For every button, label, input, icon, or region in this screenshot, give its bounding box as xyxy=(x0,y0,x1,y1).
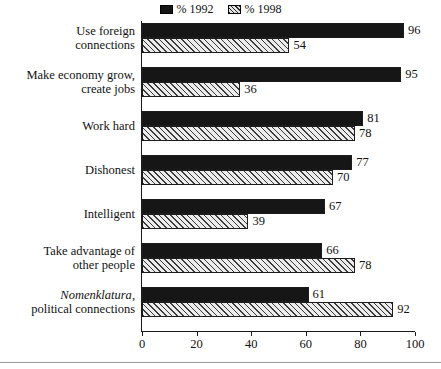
bar-value-label: 54 xyxy=(293,38,306,53)
bar-value-label: 81 xyxy=(367,111,380,126)
axis-tick xyxy=(306,332,307,336)
bar-value-label: 66 xyxy=(326,243,339,258)
category-label-line: Nomenklatura, xyxy=(0,288,135,302)
bar-1998 xyxy=(142,258,355,273)
category-label-line: Dishonest xyxy=(0,163,135,177)
axis-tick-label: 60 xyxy=(300,337,313,351)
legend-label-1998: % 1998 xyxy=(245,3,282,15)
legend-item-1992: % 1992 xyxy=(160,3,214,15)
category-label: Dishonest xyxy=(0,163,135,177)
bar-1998 xyxy=(142,38,289,53)
bar-1992 xyxy=(142,199,325,214)
category-label: Intelligent xyxy=(0,207,135,221)
bar-value-label: 78 xyxy=(359,126,372,141)
category-label-line: political connections xyxy=(0,302,135,316)
category-label-line: connections xyxy=(0,38,135,52)
bar-1992 xyxy=(142,243,322,258)
bar-1992 xyxy=(142,287,309,302)
axis-tick xyxy=(360,332,361,336)
category-label-line: Take advantage of xyxy=(0,244,135,258)
bar-value-label: 39 xyxy=(252,214,265,229)
bar-1998 xyxy=(142,170,333,185)
bar-1998 xyxy=(142,82,240,97)
category-label-line: other people xyxy=(0,258,135,272)
category-label: Make economy grow,create jobs xyxy=(0,68,135,96)
axis-tick xyxy=(197,332,198,336)
bar-1992 xyxy=(142,111,363,126)
axis-tick xyxy=(415,332,416,336)
bar-value-label: 70 xyxy=(337,170,350,185)
value-axis: 020406080100 xyxy=(142,332,415,356)
category-label-line: Work hard xyxy=(0,119,135,133)
bar-value-label: 78 xyxy=(359,258,372,273)
bar-1998 xyxy=(142,302,393,317)
bar-1998 xyxy=(142,214,248,229)
category-label: Take advantage ofother people xyxy=(0,244,135,272)
axis-tick-label: 40 xyxy=(245,337,258,351)
bar-chart: % 1992 % 1998 Use foreignconnectionsMake… xyxy=(0,0,441,369)
bar-value-label: 92 xyxy=(397,302,410,317)
axis-tick-label: 0 xyxy=(139,337,145,351)
bar-1992 xyxy=(142,67,401,82)
bar-value-label: 96 xyxy=(408,23,421,38)
bar-1992 xyxy=(142,23,404,38)
bar-value-label: 61 xyxy=(313,287,326,302)
bar-value-label: 77 xyxy=(356,155,369,170)
category-label-line: Intelligent xyxy=(0,207,135,221)
category-label-line: create jobs xyxy=(0,82,135,96)
bar-1992 xyxy=(142,155,352,170)
category-label: Nomenklatura,political connections xyxy=(0,288,135,316)
axis-tick xyxy=(251,332,252,336)
bar-1998 xyxy=(142,126,355,141)
category-label-line: Make economy grow, xyxy=(0,68,135,82)
axis-tick xyxy=(142,332,143,336)
chart-legend: % 1992 % 1998 xyxy=(0,1,441,17)
axis-tick-label: 80 xyxy=(354,337,367,351)
bar-value-label: 67 xyxy=(329,199,342,214)
legend-label-1992: % 1992 xyxy=(177,3,214,15)
hatched-swatch-icon xyxy=(228,5,241,14)
legend-item-1998: % 1998 xyxy=(228,3,282,15)
category-axis-labels: Use foreignconnectionsMake economy grow,… xyxy=(0,21,135,332)
axis-tick-label: 20 xyxy=(190,337,203,351)
bars-layer: 9654953681787770673966786192 xyxy=(142,21,415,332)
axis-tick-label: 100 xyxy=(406,337,425,351)
category-label: Work hard xyxy=(0,119,135,133)
category-label: Use foreignconnections xyxy=(0,24,135,52)
bar-value-label: 36 xyxy=(244,82,257,97)
bar-value-label: 95 xyxy=(405,67,418,82)
solid-black-swatch-icon xyxy=(160,5,173,14)
figure-bottom-rule xyxy=(0,362,441,363)
category-label-line: Use foreign xyxy=(0,24,135,38)
